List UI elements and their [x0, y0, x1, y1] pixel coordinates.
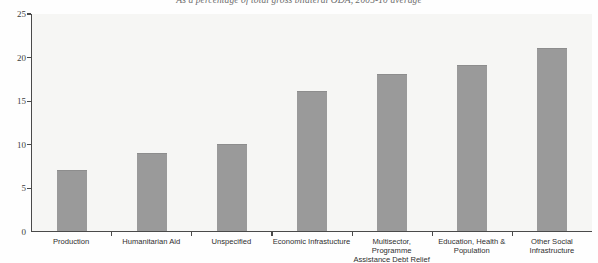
category-label-line2: Population — [433, 246, 511, 255]
bar-chart-figure: As a percentage of total gross bilateral… — [0, 0, 598, 263]
category-label-line2: Assistance Debt Relief — [353, 255, 431, 263]
x-axis-category-label: Education, Health &Population — [432, 237, 512, 263]
x-axis-category-label: Unspecified — [191, 237, 271, 263]
bar-slot — [352, 14, 432, 231]
bar-slot — [512, 14, 592, 231]
plot-area — [31, 14, 592, 232]
x-axis-tick-marks — [31, 232, 592, 236]
y-axis-tick-labels: 0510152025 — [0, 14, 26, 232]
bar[interactable] — [297, 91, 327, 231]
x-axis-category-label: Production — [31, 237, 111, 263]
x-axis-tick-mark — [352, 232, 353, 236]
y-axis-tick-label: 25 — [0, 9, 26, 19]
x-axis-tick-mark — [432, 232, 433, 236]
category-label-line1: Multisector, Programme — [372, 237, 412, 255]
x-axis-category-label: Other SocialInfrastructure — [512, 237, 592, 263]
x-axis-tick-mark — [271, 232, 272, 236]
category-label-line1: Humanitarian Aid — [122, 237, 180, 246]
y-axis-tick-label: 5 — [0, 183, 26, 193]
category-label-line1: Production — [53, 237, 89, 246]
x-axis-category-label: Humanitarian Aid — [111, 237, 191, 263]
bar-slot — [192, 14, 272, 231]
bar[interactable] — [57, 170, 87, 231]
x-axis-category-label: Multisector, ProgrammeAssistance Debt Re… — [352, 237, 432, 263]
bar[interactable] — [217, 144, 247, 231]
y-axis-tick-label: 15 — [0, 96, 26, 106]
chart-title: As a percentage of total gross bilateral… — [0, 0, 598, 5]
bar-slot — [272, 14, 352, 231]
category-label-line1: Economic Infrastucture — [273, 237, 351, 246]
bar-series — [32, 14, 592, 231]
bar-slot — [32, 14, 112, 231]
category-label-line1: Unspecified — [212, 237, 252, 246]
category-label-line2: Infrastructure — [513, 246, 591, 255]
bar[interactable] — [137, 153, 167, 231]
category-label-line1: Other Social — [531, 237, 573, 246]
x-axis-category-label: Economic Infrastucture — [271, 237, 351, 263]
bar-slot — [112, 14, 192, 231]
x-axis-tick-mark — [191, 232, 192, 236]
y-axis-tick-label: 10 — [0, 140, 26, 150]
y-axis-tick-label: 20 — [0, 53, 26, 63]
bar[interactable] — [457, 65, 487, 231]
bar[interactable] — [377, 74, 407, 231]
bar[interactable] — [537, 48, 567, 231]
bar-slot — [432, 14, 512, 231]
category-label-line1: Education, Health & — [438, 237, 505, 246]
y-axis-tick-label: 0 — [0, 227, 26, 237]
x-axis-tick-mark — [512, 232, 513, 236]
x-axis-tick-mark — [111, 232, 112, 236]
x-axis-category-labels: ProductionHumanitarian AidUnspecifiedEco… — [31, 237, 592, 263]
